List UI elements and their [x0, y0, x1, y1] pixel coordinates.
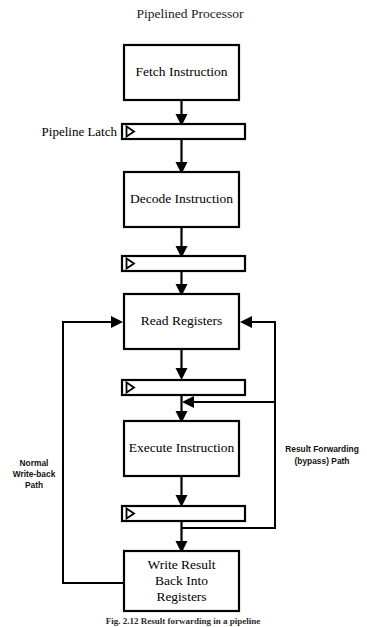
figure-canvas: Pipelined Processor Fetch Instruction Pi… [0, 0, 367, 627]
stage-execute: Execute Instruction [124, 421, 239, 476]
forwarding-arrow-head-lower [182, 396, 194, 408]
stage-decode-label: Decode Instruction [130, 191, 233, 206]
writeback-label-line1: Normal [20, 458, 49, 468]
stage-write-result-label-line1: Write Result [147, 557, 215, 572]
arrow-latch3-to-execute [176, 395, 188, 423]
pipeline-latch-label: Pipeline Latch [42, 124, 118, 139]
writeback-arrow-head [111, 316, 123, 328]
pipeline-latch-3 [122, 380, 245, 395]
arrow-latch4-to-write [176, 521, 188, 553]
figure-caption: Fig. 2.12 Result forwarding in a pipelin… [106, 616, 261, 626]
normal-writeback-path [63, 316, 124, 583]
stage-write-result: Write Result Back Into Registers [124, 551, 239, 611]
stage-fetch-label: Fetch Instruction [136, 64, 228, 79]
stage-decode: Decode Instruction [124, 172, 239, 227]
arrow-fetch-to-latch1 [176, 100, 188, 126]
pipeline-latch-2 [122, 256, 245, 271]
stage-fetch: Fetch Instruction [124, 45, 239, 100]
pipeline-latch-4-bar [122, 506, 245, 521]
arrow-latch1-to-decode [176, 139, 188, 174]
pipeline-latch-3-bar [122, 380, 245, 395]
arrow-latch2-to-read [176, 271, 188, 296]
stage-write-result-label-line2: Back Into [155, 573, 208, 588]
arrow-execute-to-latch4 [176, 476, 188, 507]
stage-execute-label: Execute Instruction [129, 440, 235, 455]
writeback-label-line2: Write-back [13, 469, 56, 479]
pipeline-latch-1-bar [122, 124, 245, 139]
arrow-decode-to-latch2 [176, 227, 188, 258]
stage-read-registers-label: Read Registers [141, 313, 222, 328]
normal-writeback-path-label: Normal Write-back Path [13, 458, 56, 490]
result-forwarding-path-label: Result Forwarding (bypass) Path [285, 444, 359, 466]
writeback-label-line3: Path [25, 480, 43, 490]
figure-title: Pipelined Processor [137, 6, 244, 21]
stage-read-registers: Read Registers [124, 294, 239, 349]
pipeline-latch-4 [122, 506, 245, 521]
arrow-read-to-latch3 [176, 349, 188, 380]
forwarding-label-line1: Result Forwarding [285, 444, 359, 454]
forwarding-label-line2: (bypass) Path [295, 456, 350, 466]
pipeline-latch-2-bar [122, 256, 245, 271]
stage-write-result-label-line3: Registers [156, 589, 206, 604]
pipeline-latch-1 [122, 124, 245, 139]
forwarding-arrow-head-upper [240, 316, 252, 328]
pipelined-processor-diagram: Pipelined Processor Fetch Instruction Pi… [0, 0, 367, 627]
